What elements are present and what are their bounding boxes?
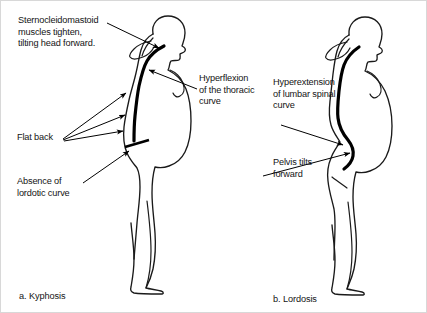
kyphosis-sacrum-bar: [125, 140, 149, 147]
kyphosis-body-figure: [63, 16, 197, 294]
lordosis-body-front-outline: [332, 17, 392, 295]
hyperextension-lumbar-label: Hyperextension of lumbar spinal curve: [273, 77, 359, 112]
lordosis-bust-contour: [367, 71, 381, 98]
sternocleidomastoid-label: Sternocleidomastoid muscles tighten, til…: [18, 15, 133, 50]
panel-b-caption: b. Lordosis: [273, 294, 317, 306]
flat-back-label: Flat back: [17, 132, 77, 144]
hyperflexion-thoracic-label: Hyperflexion of the thoracic curve: [199, 73, 271, 108]
absence-lordotic-label: Absence of lordotic curve: [17, 176, 97, 199]
kyphosis-inner-leg-line: [146, 201, 151, 288]
panel-a-caption: a. Kyphosis: [19, 291, 65, 303]
hyperextension-lumbar-arrow: [281, 125, 343, 145]
lordosis-inner-leg-line: [347, 202, 352, 289]
anatomy-diagram-figure: Sternocleidomastoid muscles tighten, til…: [0, 0, 427, 313]
lordosis-body-back-outline: [328, 35, 349, 260]
pelvis-tilts-label: Pelvis tilts forward: [273, 157, 343, 180]
lordosis-body-figure: [263, 17, 392, 295]
